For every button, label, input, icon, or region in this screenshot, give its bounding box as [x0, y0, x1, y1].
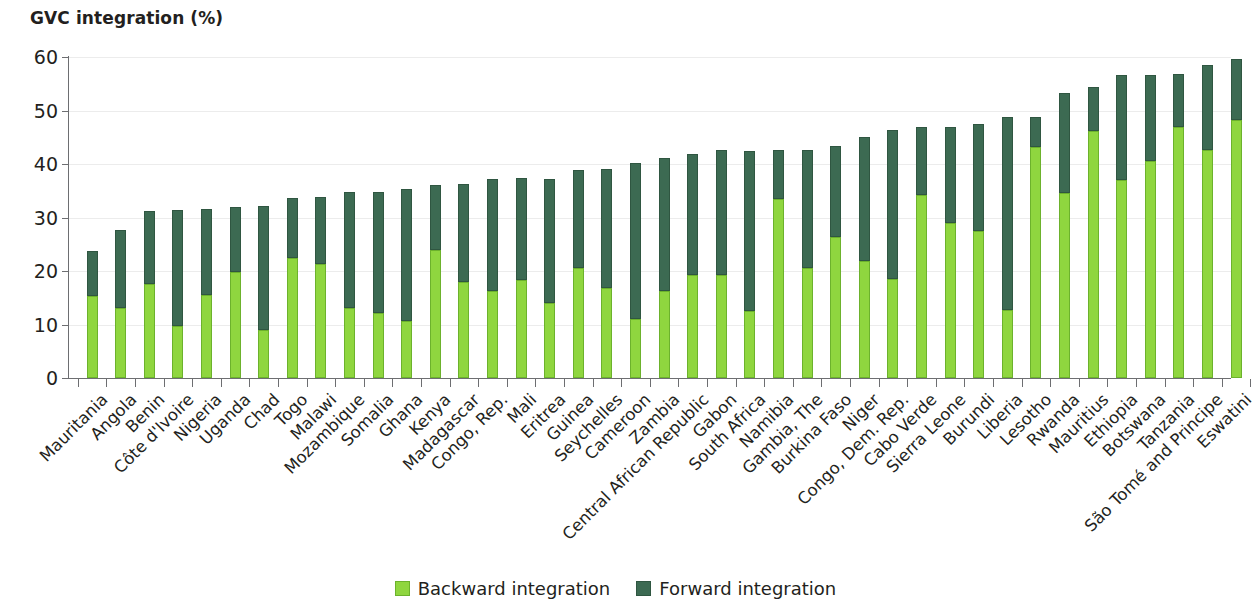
bar-segment-backward: [287, 258, 298, 378]
bar-segment-backward: [315, 264, 326, 378]
bar-segment-backward: [916, 195, 927, 379]
bar-segment-backward: [973, 231, 984, 378]
bar-segment-forward: [430, 185, 441, 249]
gridline: [69, 57, 1231, 58]
bar-segment-forward: [401, 189, 412, 321]
bar-segment-backward: [487, 291, 498, 378]
chart-title: GVC integration (%): [30, 8, 223, 28]
bar-segment-backward: [1202, 150, 1213, 378]
bar-segment-forward: [573, 170, 584, 268]
legend-item-backward[interactable]: Backward integration: [395, 578, 611, 599]
y-axis-tick-label: 30: [12, 207, 58, 229]
bar-segment-backward: [516, 280, 527, 378]
x-axis-tick-mark: [1222, 379, 1223, 387]
bar-segment-backward: [802, 268, 813, 378]
y-axis-tick-label: 0: [12, 367, 58, 389]
x-axis-tick-mark: [507, 379, 508, 387]
x-axis-tick-mark: [364, 379, 365, 387]
bar-segment-backward: [544, 303, 555, 378]
bar-segment-backward: [573, 268, 584, 378]
bar-segment-backward: [859, 261, 870, 378]
y-axis-tick-label: 50: [12, 100, 58, 122]
bar-segment-backward: [744, 311, 755, 378]
x-axis-tick-mark: [450, 379, 451, 387]
bar-segment-backward: [1030, 147, 1041, 378]
bar-segment-forward: [659, 158, 670, 291]
x-axis-tick-mark: [907, 379, 908, 387]
bar-segment-forward: [1173, 74, 1184, 126]
y-axis-tick-label: 60: [12, 46, 58, 68]
bar-segment-backward: [1145, 161, 1156, 378]
x-axis-tick-mark: [621, 379, 622, 387]
x-axis-tick-mark: [478, 379, 479, 387]
y-axis-tick-label: 10: [12, 314, 58, 336]
x-axis-tick-mark: [1193, 379, 1194, 387]
bar-segment-forward: [115, 230, 126, 309]
x-axis-tick-mark: [736, 379, 737, 387]
bar-segment-forward: [287, 198, 298, 257]
bar-segment-backward: [1088, 131, 1099, 378]
bar-segment-backward: [344, 308, 355, 378]
bar-segment-forward: [1116, 75, 1127, 180]
gridline: [69, 164, 1231, 165]
x-axis-tick-mark: [650, 379, 651, 387]
bar-segment-backward: [258, 330, 269, 378]
bar-segment-backward: [773, 199, 784, 378]
bar-segment-forward: [945, 127, 956, 224]
x-axis-tick-mark: [1165, 379, 1166, 387]
bar-segment-backward: [458, 282, 469, 378]
bar-segment-forward: [687, 154, 698, 275]
gridline: [69, 325, 1231, 326]
chart-legend: Backward integrationForward integration: [0, 578, 1231, 599]
gridline: [69, 111, 1231, 112]
bar-segment-backward: [659, 291, 670, 378]
bar-segment-forward: [830, 146, 841, 236]
x-axis-tick-mark: [764, 379, 765, 387]
bar-segment-backward: [830, 237, 841, 378]
bar-segment-backward: [1173, 127, 1184, 378]
bar-segment-forward: [87, 251, 98, 296]
x-axis-tick-mark: [1107, 379, 1108, 387]
bar-segment-forward: [1231, 59, 1242, 120]
bar-segment-backward: [601, 288, 612, 378]
legend-item-forward[interactable]: Forward integration: [636, 578, 836, 599]
x-axis-tick-mark: [421, 379, 422, 387]
bar-segment-backward: [87, 296, 98, 378]
bar-segment-forward: [716, 150, 727, 275]
bar-segment-backward: [115, 308, 126, 378]
bar-segment-forward: [630, 163, 641, 319]
x-axis-tick-mark: [307, 379, 308, 387]
y-axis-tick-label: 20: [12, 260, 58, 282]
bar-segment-forward: [315, 197, 326, 264]
bar-segment-backward: [230, 272, 241, 378]
bar-segment-forward: [344, 192, 355, 308]
x-axis-tick-mark: [1136, 379, 1137, 387]
bar-segment-forward: [230, 207, 241, 272]
x-axis-tick-mark: [936, 379, 937, 387]
bar-segment-backward: [1231, 120, 1242, 378]
bar-segment-forward: [1145, 75, 1156, 161]
bar-segment-backward: [1116, 180, 1127, 378]
bar-segment-backward: [687, 275, 698, 378]
x-axis-tick-mark: [964, 379, 965, 387]
bar-segment-backward: [630, 319, 641, 378]
bar-segment-forward: [744, 151, 755, 312]
x-axis-tick-mark: [164, 379, 165, 387]
bar-segment-forward: [1059, 93, 1070, 194]
bar-segment-backward: [716, 275, 727, 378]
bar-segment-forward: [601, 169, 612, 288]
bar-segment-backward: [172, 326, 183, 378]
legend-label: Backward integration: [418, 578, 611, 599]
x-axis-tick-mark: [821, 379, 822, 387]
bar-segment-backward: [430, 250, 441, 378]
bar-segment-forward: [144, 211, 155, 285]
x-axis-tick-mark: [106, 379, 107, 387]
bar-segment-backward: [373, 313, 384, 378]
x-axis-tick-mark: [793, 379, 794, 387]
x-axis-tick-mark: [192, 379, 193, 387]
x-axis-tick-mark: [593, 379, 594, 387]
x-axis-tick-mark: [335, 379, 336, 387]
x-axis-tick-mark: [249, 379, 250, 387]
legend-label: Forward integration: [659, 578, 836, 599]
